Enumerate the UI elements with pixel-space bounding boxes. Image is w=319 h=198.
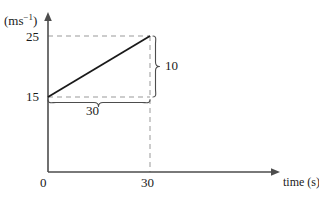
- y-axis-unit-suffix: ): [33, 13, 37, 28]
- rise-annotation-label: 10: [165, 59, 178, 72]
- y-axis-unit-prefix: (ms: [4, 13, 24, 28]
- y-axis-arrowhead: [44, 12, 52, 21]
- y-tick-label-lower: 15: [26, 90, 39, 103]
- velocity-line: [48, 36, 150, 97]
- rise-brace: [153, 36, 160, 97]
- graph-canvas: [0, 0, 319, 198]
- x-axis-name-label: time (s): [283, 176, 319, 188]
- x-tick-label-right: 30: [141, 176, 154, 189]
- y-axis-unit-exponent: −1: [24, 12, 33, 22]
- velocity-time-graph-figure: (ms−1) 25 15 0 30 time (s) 10 30: [0, 0, 319, 198]
- x-axis-arrowhead: [271, 168, 280, 176]
- origin-tick-label: 0: [40, 176, 47, 189]
- y-axis-unit-label: (ms−1): [4, 14, 37, 27]
- run-annotation-label: 30: [86, 104, 99, 117]
- y-tick-label-upper: 25: [26, 30, 39, 43]
- run-brace: [48, 100, 150, 107]
